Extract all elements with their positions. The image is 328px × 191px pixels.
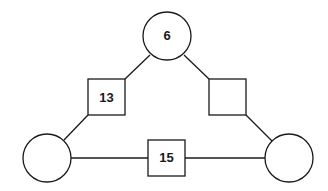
top-circle-label: 6	[152, 28, 182, 44]
edge-top-left	[125, 55, 150, 79]
left-square-label: 13	[91, 90, 122, 106]
left-circle	[23, 134, 71, 182]
edge-left-bottom	[64, 115, 88, 140]
right-circle	[265, 134, 313, 182]
edge-right-bottom	[246, 115, 272, 141]
bottom-square-label: 15	[151, 150, 182, 166]
right-square	[209, 79, 246, 115]
edge-top-right	[184, 55, 209, 79]
